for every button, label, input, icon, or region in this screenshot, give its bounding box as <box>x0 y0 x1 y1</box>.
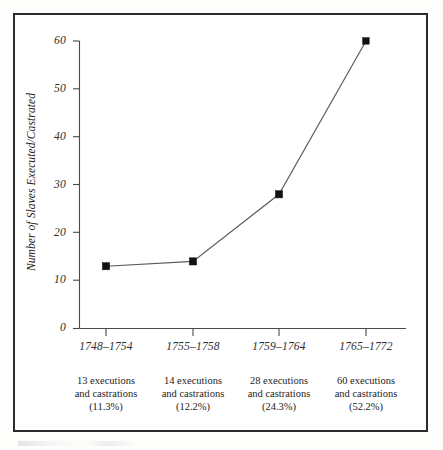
annotation-block-4: 60 executions and castrations (52.2%) <box>316 374 416 414</box>
annotation-percentage: (52.2%) <box>316 400 416 413</box>
series-line <box>106 41 366 266</box>
annotation-block-2: 14 executions and castrations (12.2%) <box>143 374 243 414</box>
annotation-block-3: 28 executions and castrations (24.3%) <box>229 374 329 414</box>
annotation-count: 13 executions <box>56 374 156 387</box>
annotation-descriptor: and castrations <box>143 387 243 400</box>
y-tick-label-50: 50 <box>40 82 66 94</box>
annotation-descriptor: and castrations <box>229 387 329 400</box>
x-tick-label-1765-1772: 1765–1772 <box>318 340 414 352</box>
data-point-marker <box>102 263 109 270</box>
annotation-percentage: (11.3%) <box>56 400 156 413</box>
annotation-count: 28 executions <box>229 374 329 387</box>
y-tick-label-0: 0 <box>40 321 66 333</box>
annotation-descriptor: and castrations <box>316 387 416 400</box>
series-markers <box>102 38 369 270</box>
y-tick-label-30: 30 <box>40 178 66 190</box>
data-point-marker <box>189 258 196 265</box>
y-tick-label-20: 20 <box>40 226 66 238</box>
x-axis-ticks <box>106 329 366 337</box>
annotation-count: 14 executions <box>143 374 243 387</box>
data-point-marker <box>363 38 370 45</box>
data-point-marker <box>275 191 282 198</box>
y-axis-ticks <box>73 41 80 329</box>
y-tick-label-10: 10 <box>40 273 66 285</box>
x-tick-label-1748-1754: 1748–1754 <box>58 340 154 352</box>
annotation-percentage: (24.3%) <box>229 400 329 413</box>
scan-edge-artifact <box>18 441 138 446</box>
y-tick-label-60: 60 <box>40 34 66 46</box>
annotation-descriptor: and castrations <box>56 387 156 400</box>
annotation-percentage: (12.2%) <box>143 400 243 413</box>
y-axis-title: Number of Slaves Executed/Castrated <box>25 87 37 277</box>
x-tick-label-1759-1764: 1759–1764 <box>231 340 327 352</box>
x-tick-label-1755-1758: 1755–1758 <box>145 340 241 352</box>
annotation-block-1: 13 executions and castrations (11.3%) <box>56 374 156 414</box>
y-tick-label-40: 40 <box>40 130 66 142</box>
annotation-count: 60 executions <box>316 374 416 387</box>
figure-page: Number of Slaves Executed/Castrated 60 5… <box>0 0 443 450</box>
